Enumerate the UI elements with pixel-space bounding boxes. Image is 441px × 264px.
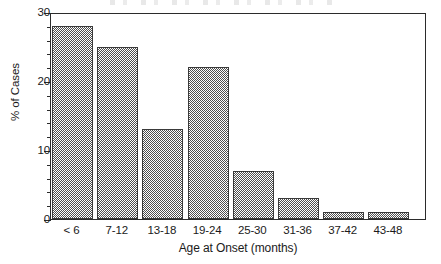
bars-layer — [51, 14, 425, 219]
x-axis-tick-labels: < 67-1213-1819-2425-3031-3637-4243-48 — [50, 224, 426, 238]
x-axis-tick-label: 43-48 — [358, 224, 418, 236]
scan-artifact — [110, 0, 340, 5]
bar — [52, 26, 93, 219]
bar — [233, 171, 274, 219]
bar-chart-figure: % of Cases 0102030 < 67-1213-1819-2425-3… — [0, 0, 441, 264]
bar — [142, 129, 183, 219]
x-axis-title: Age at Onset (months) — [50, 241, 426, 255]
bar — [97, 47, 138, 220]
plot-area — [50, 13, 426, 220]
bar — [188, 67, 229, 219]
bar — [323, 212, 364, 219]
bar — [368, 212, 409, 219]
bar — [278, 198, 319, 219]
